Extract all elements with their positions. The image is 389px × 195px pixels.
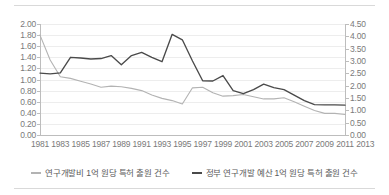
legend-item-government-rnd-budget: 정부 연구개발 예산 1억 원당 특허 출원 건수: [192, 168, 358, 178]
legend-swatch-rnd-expenditure: [31, 172, 41, 174]
series-line-rnd-expenditure: [40, 35, 345, 114]
legend-label-government-rnd-budget: 정부 연구개발 예산 1억 원당 특허 출원 건수: [206, 168, 358, 178]
chart-legend: 연구개발비 1억 원당 특허 출원 건수 정부 연구개발 예산 1억 원당 특허…: [0, 168, 389, 178]
legend-item-rnd-expenditure: 연구개발비 1억 원당 특허 출원 건수: [31, 168, 170, 178]
series-line-government-rnd-budget: [40, 34, 345, 105]
series-lines: [0, 0, 389, 195]
legend-swatch-government-rnd-budget: [192, 172, 202, 175]
legend-label-rnd-expenditure: 연구개발비 1억 원당 특허 출원 건수: [45, 168, 170, 178]
dual-axis-line-chart: 0.000.200.400.600.801.001.201.401.601.80…: [0, 0, 389, 195]
